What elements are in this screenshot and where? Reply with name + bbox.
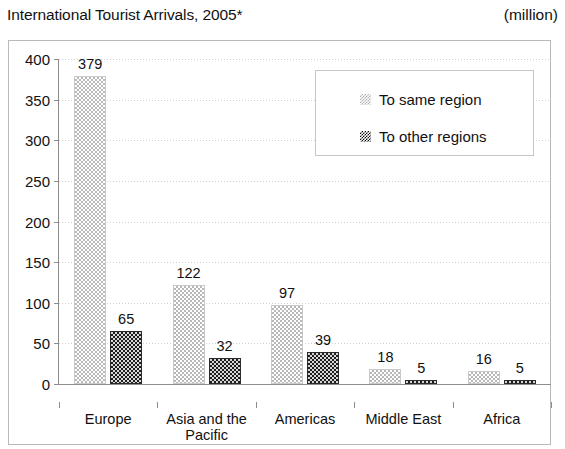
gridline [59, 303, 551, 304]
x-axis-tick [59, 402, 60, 408]
bar-value-label: 379 [78, 57, 102, 72]
y-axis-tick-label: 100 [25, 295, 50, 310]
page-title: International Tourist Arrivals, 2005* [7, 6, 243, 24]
bar-to-other-regions [110, 331, 142, 384]
y-axis-tick-label: 300 [25, 133, 50, 148]
y-axis-tick [54, 181, 59, 182]
y-axis-tick-label: 50 [33, 336, 50, 351]
bar-to-other-regions [504, 380, 536, 384]
y-axis-tick [54, 262, 59, 263]
bar-value-label: 5 [417, 361, 425, 376]
chart-legend: To same region To other regions [315, 70, 534, 156]
y-axis-tick-label: 200 [25, 214, 50, 229]
y-axis-tick-label: 250 [25, 173, 50, 188]
y-axis-tick [54, 100, 59, 101]
y-axis-tick-label: 400 [25, 52, 50, 67]
chart-header: International Tourist Arrivals, 2005* (m… [7, 6, 558, 32]
chart-screenshot: International Tourist Arrivals, 2005* (m… [0, 0, 565, 449]
bar-value-label: 5 [516, 361, 524, 376]
x-axis-line [58, 384, 551, 385]
bar-value-label: 97 [279, 286, 295, 301]
bar-to-same-region [468, 371, 500, 384]
bar-value-label: 16 [476, 352, 492, 367]
legend-item-label: To other regions [379, 128, 487, 145]
gridline [59, 59, 551, 60]
x-axis-category-label: Europe [85, 411, 132, 427]
bar-to-same-region [74, 76, 106, 384]
y-axis-tick [54, 303, 59, 304]
bar-value-label: 122 [176, 266, 200, 281]
y-axis-tick [54, 59, 59, 60]
y-axis-tick [54, 343, 59, 344]
legend-item-label: To same region [379, 91, 482, 108]
unit-label: (million) [504, 6, 558, 24]
x-axis-category-label: Americas [275, 411, 335, 427]
x-axis-tick [256, 402, 257, 408]
bar-to-other-regions [307, 352, 339, 384]
y-axis-tick-label: 0 [42, 377, 50, 392]
y-axis-tick [54, 384, 59, 385]
chart-frame: 05010015020025030035040037965Europe12232… [8, 40, 551, 445]
gridline [59, 222, 551, 223]
legend-item-to-same-region: To same region [360, 91, 482, 108]
dark-checker-swatch [360, 131, 371, 142]
light-checker-swatch [360, 94, 371, 105]
x-axis-category-label: Middle East [366, 411, 442, 427]
x-axis-tick [354, 402, 355, 408]
gridline [59, 262, 551, 263]
x-axis-tick [157, 402, 158, 408]
y-axis-tick-label: 350 [25, 92, 50, 107]
bar-to-other-regions [405, 380, 437, 384]
x-axis-category-label: Africa [483, 411, 520, 427]
bar-value-label: 18 [377, 350, 393, 365]
bar-value-label: 39 [315, 333, 331, 348]
x-axis-tick [551, 402, 552, 408]
bar-value-label: 32 [217, 339, 233, 354]
y-axis-tick [54, 140, 59, 141]
y-axis-tick [54, 222, 59, 223]
x-axis-tick [453, 402, 454, 408]
bar-to-same-region [173, 285, 205, 384]
x-axis-category-label: Asia and the Pacific [166, 411, 247, 443]
legend-item-to-other-regions: To other regions [360, 128, 487, 145]
bar-value-label: 65 [118, 312, 134, 327]
bar-to-same-region [369, 369, 401, 384]
gridline [59, 181, 551, 182]
y-axis-tick-label: 150 [25, 255, 50, 270]
bar-to-same-region [271, 305, 303, 384]
bar-to-other-regions [209, 358, 241, 384]
